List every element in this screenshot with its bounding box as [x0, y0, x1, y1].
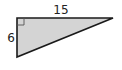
triangle-diagram: 15 6: [0, 0, 122, 70]
top-side-label: 15: [53, 3, 68, 17]
left-side-label: 6: [7, 31, 15, 45]
right-triangle: [17, 18, 113, 57]
